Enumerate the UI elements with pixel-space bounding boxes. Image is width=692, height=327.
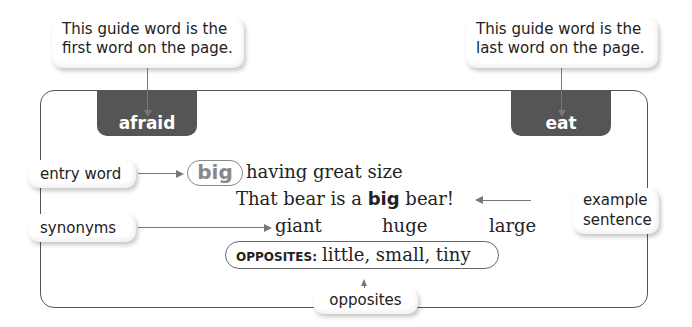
example-sentence: That bear is a big bear! bbox=[236, 188, 454, 209]
callout-synonyms-text: synonyms bbox=[40, 219, 116, 237]
pointer-entry-word bbox=[138, 173, 178, 174]
synonym-2: huge bbox=[382, 215, 427, 236]
arrow-first-guide-icon bbox=[144, 110, 152, 117]
opposites-label: OPPOSITES: bbox=[236, 250, 317, 264]
synonym-3: large bbox=[489, 215, 536, 236]
arrow-last-guide-icon bbox=[558, 110, 566, 117]
callout-example-sentence: example sentence bbox=[573, 188, 659, 234]
example-after: bear! bbox=[400, 188, 454, 209]
synonym-1: giant bbox=[275, 215, 322, 236]
callout-first-line2: first word on the page. bbox=[62, 39, 244, 58]
callout-opposites-text: opposites bbox=[329, 291, 401, 309]
opposites-list: little, small, tiny bbox=[322, 244, 471, 265]
arrow-synonyms-icon bbox=[264, 224, 272, 232]
callout-last-line1: This guide word is the bbox=[476, 20, 658, 39]
callout-synonyms: synonyms bbox=[28, 214, 136, 242]
opposites-pill: OPPOSITES: little, small, tiny bbox=[225, 241, 499, 269]
example-bold: big bbox=[368, 188, 400, 209]
callout-entry-word-text: entry word bbox=[40, 165, 121, 183]
callout-entry-word: entry word bbox=[28, 160, 136, 188]
definition: having great size bbox=[246, 161, 403, 182]
callout-example-line2: sentence bbox=[583, 210, 659, 230]
pointer-first-guide bbox=[147, 68, 148, 112]
callout-last-line2: last word on the page. bbox=[476, 39, 658, 58]
example-before: That bear is a bbox=[236, 188, 368, 209]
callout-first-line1: This guide word is the bbox=[62, 20, 244, 39]
pointer-synonyms bbox=[138, 227, 266, 228]
pointer-example bbox=[483, 200, 531, 201]
entry-word-text: big bbox=[197, 160, 233, 184]
callout-example-line1: example bbox=[583, 190, 659, 210]
entry-word-pill: big bbox=[187, 160, 243, 186]
callout-first-guide-word: This guide word is the first word on the… bbox=[52, 18, 244, 68]
callout-opposites: opposites bbox=[313, 288, 418, 314]
callout-last-guide-word: This guide word is the last word on the … bbox=[466, 18, 658, 68]
arrow-example-icon bbox=[475, 196, 483, 204]
pointer-last-guide bbox=[561, 68, 562, 112]
arrow-entry-word-icon bbox=[176, 170, 184, 178]
